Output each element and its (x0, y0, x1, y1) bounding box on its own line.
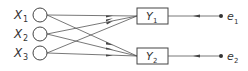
edges-inputs-to-outputs (47, 15, 137, 56)
error-source-dot-e1 (219, 14, 223, 18)
edge-x1-y1 (47, 15, 137, 16)
svg-text:1: 1 (23, 15, 28, 24)
input-label-x2: X 2 (13, 27, 28, 43)
output-node-y1: Y 1 (137, 8, 168, 25)
error-edges (168, 16, 220, 56)
input-node-x2 (33, 27, 47, 41)
svg-text:3: 3 (23, 53, 28, 62)
svg-text:e: e (227, 10, 234, 23)
edge-x2-y1 (47, 16, 137, 34)
edge-x3-y2 (47, 53, 137, 56)
svg-text:1: 1 (153, 17, 157, 25)
input-node-x3 (33, 46, 47, 60)
error-source-dot-e2 (219, 54, 223, 58)
arrowhead-icon (193, 54, 200, 57)
svg-text:2: 2 (234, 57, 238, 65)
arrowhead-icon (193, 14, 200, 17)
path-diagram: X 1 X 2 X 3 Y 1 Y 2 (0, 0, 248, 71)
edge-x2-y2 (47, 34, 137, 56)
arrowhead-icon (106, 16, 113, 18)
svg-text:1: 1 (234, 18, 238, 26)
output-node-y2: Y 2 (137, 48, 168, 65)
svg-text:2: 2 (23, 34, 28, 43)
input-label-x3: X 3 (13, 46, 28, 62)
svg-text:2: 2 (153, 57, 157, 65)
error-arrowheads (193, 14, 200, 57)
input-node-x1 (33, 8, 47, 22)
error-label-e2: e 2 (227, 50, 238, 65)
arrowhead-icon (106, 47, 113, 49)
svg-text:e: e (227, 50, 234, 63)
svg-text:X: X (13, 8, 23, 22)
error-label-e1: e 1 (227, 10, 238, 26)
svg-text:X: X (13, 46, 23, 60)
svg-text:X: X (13, 27, 23, 41)
input-label-x1: X 1 (13, 8, 28, 24)
